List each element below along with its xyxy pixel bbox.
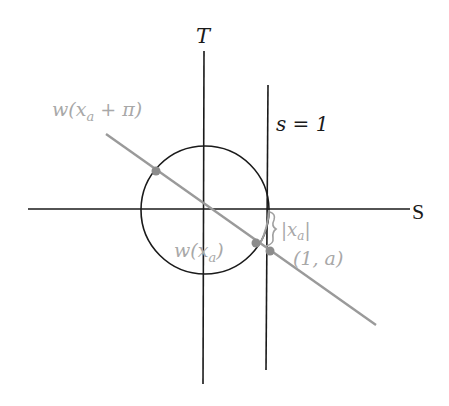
t-axis-label: T	[196, 24, 212, 48]
point-w-xa-plus-pi	[152, 167, 161, 176]
label-w-xa: w(xa)	[174, 239, 224, 265]
label-1-a: (1, a)	[293, 247, 343, 269]
label-w-xa-plus-pi: w(xa + π)	[52, 98, 142, 124]
s-equals-1-label: s = 1	[276, 112, 328, 136]
point-1-a	[266, 247, 275, 256]
s-axis-label: S	[412, 199, 424, 224]
t-axis	[203, 51, 204, 384]
label-arc-length-xa: |xa|	[281, 219, 310, 243]
unit-circle-diagram: T S s = 1 w(xa + π) w(xa) (1, a) |xa|	[0, 0, 449, 406]
gray-line-through-origin	[106, 134, 376, 325]
point-w-xa	[252, 239, 261, 248]
